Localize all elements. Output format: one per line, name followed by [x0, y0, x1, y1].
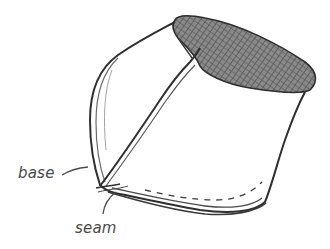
- pouch-sketch: [0, 0, 330, 249]
- sketch-figure: base seam: [0, 0, 330, 249]
- seam-leader: [103, 192, 116, 214]
- label-base: base: [18, 164, 55, 182]
- label-seam: seam: [75, 219, 117, 237]
- stitch-line: [145, 182, 262, 200]
- base-leader: [62, 167, 88, 175]
- flap-edge: [100, 48, 200, 186]
- opening-hatched: [173, 16, 315, 93]
